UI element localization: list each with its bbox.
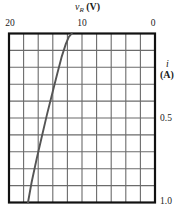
chart-figure: vR (V) 20 10 0 i (A) 0.5 1.0 xyxy=(0,0,195,210)
plot-area xyxy=(0,0,195,210)
grid-lines xyxy=(9,34,155,203)
